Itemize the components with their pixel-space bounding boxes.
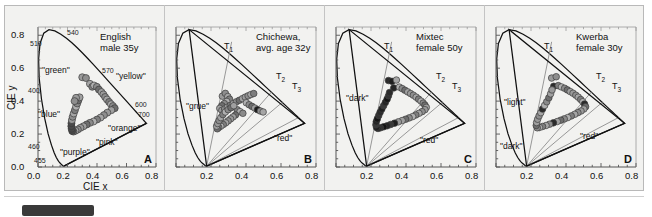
x-tick-label: 0.8 (305, 170, 318, 181)
category-label-t3: T3 (292, 81, 301, 93)
category-label-t2: T2 (436, 71, 445, 83)
y-tick-label: 0.2 (11, 128, 24, 139)
color-term-label: "orange" (108, 123, 141, 133)
category-label-t1: T1 (224, 41, 233, 53)
x-tick-label: 0.8 (145, 170, 158, 181)
panel-title: Englishmale 35y (100, 31, 139, 53)
panel-title-line: avg. age 32y (256, 42, 310, 53)
x-axis-label: CIE x (83, 181, 107, 192)
x-tick-label: 0.2 (200, 170, 213, 181)
panel-divider (324, 5, 325, 191)
category-label-t1: T1 (384, 41, 393, 53)
data-point (250, 90, 257, 97)
caption-bar (22, 205, 94, 216)
panel-title-line: English (100, 31, 139, 42)
x-tick-label: 0.2 (360, 170, 373, 181)
x-tick-label: 0.2 (57, 170, 70, 181)
color-term-label: "grue" (186, 101, 209, 111)
panel-b: Chichewa,avg. age 32yB"grue""red"T1T2T30… (164, 5, 324, 191)
figure-divider (4, 196, 644, 197)
wavelength-label: 600 (135, 101, 147, 108)
x-tick-label: 0.4 (555, 170, 568, 181)
panel-d: Kwerbafemale 30yD"light""dark""red"T1T2T… (484, 5, 644, 191)
category-label-t2: T2 (276, 71, 285, 83)
category-label-t3: T3 (612, 81, 621, 93)
y-tick-label: 0.6 (11, 62, 24, 73)
color-term-label: "dark" (500, 141, 523, 151)
data-point (553, 73, 560, 80)
panel-letter: D (624, 153, 632, 165)
color-term-label: "light" (504, 97, 526, 107)
panel-divider (484, 5, 485, 191)
color-term-label: "red" (420, 135, 438, 145)
panel-title-line: Mixtec (416, 31, 462, 42)
color-term-label: "dark" (346, 93, 369, 103)
panel-a: Englishmale 35yA"green""yellow""blue""or… (4, 5, 164, 191)
category-label-t3: T3 (452, 81, 461, 93)
data-point (71, 98, 78, 105)
x-tick-label: 0.4 (86, 170, 99, 181)
x-tick-label: 0.6 (116, 170, 129, 181)
color-term-label: "purple" (60, 147, 90, 157)
x-tick-label: 0.0 (27, 170, 40, 181)
panel-title-line: female 30y (576, 42, 622, 53)
x-tick-label: 0.6 (590, 170, 603, 181)
color-term-label: "red" (274, 133, 292, 143)
plot-canvas (4, 5, 164, 191)
panel-title-line: male 35y (100, 42, 139, 53)
wavelength-label: 700 (138, 111, 150, 118)
panel-title: Chichewa,avg. age 32y (256, 31, 310, 53)
data-point (393, 77, 400, 84)
category-label-t2: T2 (596, 71, 605, 83)
wavelength-label: 570 (102, 67, 114, 74)
data-point (386, 89, 393, 96)
panel-title: Kwerbafemale 30y (576, 31, 622, 53)
wavelength-label: 540 (67, 29, 79, 36)
wavelength-label: 510 (30, 40, 42, 47)
panel-letter: B (304, 153, 312, 165)
panel-divider (164, 5, 165, 191)
y-tick-label: 0.8 (11, 29, 24, 40)
panel-title: Mixtecfemale 50y (416, 31, 462, 53)
panel-letter: C (464, 153, 472, 165)
data-point (230, 102, 237, 109)
figure-root: Englishmale 35yA"green""yellow""blue""or… (0, 0, 652, 217)
y-tick-label: 0.0 (11, 161, 24, 172)
panel-title-line: Chichewa, (256, 31, 310, 42)
wavelength-label: 460 (28, 143, 40, 150)
color-term-label: "yellow" (116, 71, 146, 81)
x-tick-label: 0.4 (235, 170, 248, 181)
color-term-label: "green" (42, 65, 70, 75)
x-tick-label: 0.4 (395, 170, 408, 181)
color-term-label: "pink" (96, 137, 118, 147)
x-tick-label: 0.6 (270, 170, 283, 181)
x-tick-label: 0.8 (625, 170, 638, 181)
x-tick-label: 0.2 (520, 170, 533, 181)
panel-title-line: female 50y (416, 42, 462, 53)
panel-title-line: Kwerba (576, 31, 622, 42)
wavelength-label: 455 (34, 157, 46, 164)
x-tick-label: 0.6 (430, 170, 443, 181)
color-term-label: "blue" (38, 109, 60, 119)
category-label-t1: T1 (544, 41, 553, 53)
wavelength-label: 400 (28, 87, 40, 94)
data-point (549, 87, 556, 94)
y-axis-label: CIE y (6, 86, 17, 110)
data-point (240, 110, 247, 117)
panel-letter: A (144, 153, 152, 165)
data-point (260, 109, 267, 116)
color-term-label: "red" (580, 131, 598, 141)
panel-c: Mixtecfemale 50yC"dark""red"T1T2T30.20.4… (324, 5, 484, 191)
x-tick-label: 0.8 (465, 170, 478, 181)
